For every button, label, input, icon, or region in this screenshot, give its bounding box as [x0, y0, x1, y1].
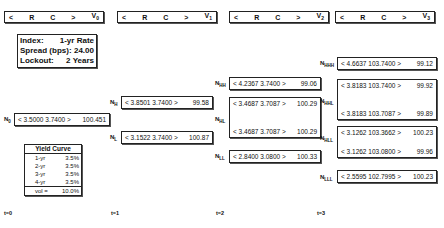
vol-label: vol = [35, 187, 48, 195]
node-value: 99.12 [417, 60, 433, 67]
header-t2: <RC>V2 [229, 11, 329, 23]
header-v: V1 [205, 12, 212, 21]
header-lt: < [340, 14, 344, 21]
rate: 3.5% [65, 154, 79, 162]
node-label-nh: NH [110, 99, 118, 107]
node-value: 100.23 [413, 129, 433, 136]
node-rc: < 3.1262 103.0800 > [341, 148, 401, 155]
node-rc: < 3.5000 3.7400 > [18, 116, 71, 123]
rate: 3.5% [65, 178, 79, 186]
yield-curve-table: Yield Curve 1-yr3.5% 2-yr3.5% 3-yr3.5% 4… [24, 144, 82, 196]
header-gt: > [296, 14, 300, 21]
tenor: 2-yr [35, 162, 45, 170]
node-label-nl: NL [110, 134, 117, 142]
header-v: V0 [92, 12, 99, 21]
node-value: 100.23 [413, 173, 433, 180]
header-r: R [254, 14, 259, 21]
header-gt: > [184, 14, 188, 21]
node-nll: < 2.8400 3.0800 >100.33 [229, 150, 321, 163]
header-c: C [381, 14, 386, 21]
spread-value: 24.00 [74, 46, 94, 56]
node-value: 100.29 [297, 100, 317, 107]
node-nhhh: < 4.6637 103.7400 >99.12 [337, 57, 437, 70]
node-value: 99.89 [417, 110, 433, 117]
node-nh: < 3.8501 3.7400 >99.58 [121, 96, 213, 109]
header-t3: <RC>V3 [335, 11, 435, 23]
node-rc: < 4.2367 3.7400 > [233, 80, 286, 87]
node-value: 100.29 [297, 128, 317, 135]
node-rc: < 3.4687 3.7087 > [233, 100, 286, 107]
bond-info-box: Index:1-yr Rate Spread (bps):24.00 Locko… [17, 34, 97, 68]
node-label-nhll: NHLL [320, 135, 333, 143]
header-lt: < [234, 14, 238, 21]
node-label-nhl: NHL [215, 116, 225, 124]
header-gt: > [402, 14, 406, 21]
node-label-nhhl: NHHL [320, 98, 334, 106]
node-value: 100.87 [189, 134, 209, 141]
header-lt: < [122, 14, 126, 21]
header-lt: < [9, 14, 13, 21]
node-value: 99.92 [417, 82, 433, 89]
node-value: 99.58 [193, 99, 209, 106]
header-t1: <RC>V1 [117, 11, 217, 23]
time-label-t3: t=3 [317, 210, 325, 216]
node-n0: < 3.5000 3.7400 >100.451 [14, 113, 110, 126]
node-rc: < 3.8501 3.7400 > [125, 99, 178, 106]
node-value: 99.06 [301, 80, 317, 87]
header-v: V3 [423, 12, 430, 21]
rate: 3.5% [65, 170, 79, 178]
header-r: R [360, 14, 365, 21]
node-value: 100.33 [297, 153, 317, 160]
header-c: C [50, 14, 55, 21]
header-v: V2 [317, 12, 324, 21]
node-nlll: < 2.5595 102.7995 >100.23 [337, 170, 437, 183]
vol-value: 10.0% [62, 187, 79, 195]
header-r: R [142, 14, 147, 21]
node-nhh: < 4.2367 3.7400 >99.06 [229, 77, 321, 90]
node-rc: < 3.4687 3.7087 > [233, 128, 286, 135]
tenor: 3-yr [35, 170, 45, 178]
node-rc: < 4.6637 103.7400 > [341, 60, 401, 67]
header-c: C [163, 14, 168, 21]
yield-curve-title: Yield Curve [25, 145, 81, 154]
node-nhhl: < 3.8183 103.7400 >99.92 < 3.8183 103.70… [337, 79, 437, 120]
node-value: 100.451 [83, 116, 107, 123]
time-label-t2: t=2 [216, 210, 224, 216]
node-nl: < 3.1522 3.7400 >100.87 [121, 131, 213, 144]
rate: 3.5% [65, 162, 79, 170]
node-label-nhh: NHH [215, 80, 226, 88]
lockout-label: Lockout: [20, 56, 54, 66]
node-value: 99.96 [417, 148, 433, 155]
node-rc: < 2.8400 3.0800 > [233, 153, 286, 160]
spread-label: Spread (bps): [20, 46, 72, 56]
tenor: 4-yr [35, 178, 45, 186]
header-c: C [275, 14, 280, 21]
header-r: R [29, 14, 34, 21]
index-label: Index: [20, 36, 44, 46]
node-label-nll: NLL [215, 153, 225, 161]
node-nhll: < 3.1262 103.3662 >100.23 < 3.1262 103.0… [337, 126, 437, 158]
node-rc: < 3.1522 3.7400 > [125, 134, 178, 141]
time-label-t1: t=1 [111, 210, 119, 216]
node-nhl: < 3.4687 3.7087 >100.29 < 3.4687 3.7087 … [229, 97, 321, 138]
node-rc: < 2.5595 102.7995 > [341, 173, 401, 180]
header-t0: <RC>V0 [4, 11, 104, 23]
time-label-t0: t=0 [4, 210, 12, 216]
node-label-nlll: NLLL [320, 174, 333, 182]
node-rc: < 3.8183 103.7087 > [341, 110, 401, 117]
lockout-value: 2 Years [66, 56, 94, 66]
node-label-nhhh: NHHH [320, 60, 334, 68]
header-gt: > [71, 14, 75, 21]
node-rc: < 3.1262 103.3662 > [341, 129, 401, 136]
tenor: 1-yr [35, 154, 45, 162]
index-value: 1-yr Rate [60, 36, 94, 46]
node-rc: < 3.8183 103.7400 > [341, 82, 401, 89]
node-label-n0: N0 [4, 116, 11, 124]
